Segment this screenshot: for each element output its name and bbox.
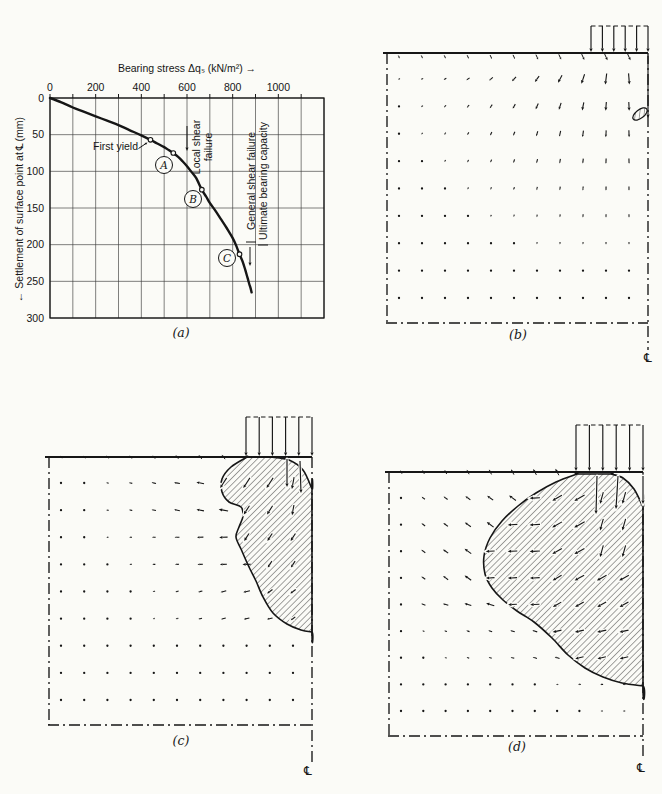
- panel-c-label: (c): [173, 733, 190, 748]
- annotation-general-shear-failure: General shear failure Ultimate bearing c…: [246, 122, 269, 240]
- svg-text:0: 0: [47, 81, 53, 93]
- svg-text:300: 300: [26, 312, 44, 324]
- svg-text:150: 150: [26, 202, 44, 214]
- point-label-A: A: [155, 156, 173, 174]
- annotation-local-shear-failure: Local shear failure: [191, 103, 214, 191]
- chart-a: 02004006008001000050100150200250300: [26, 81, 324, 324]
- y-axis-title-text: ← Settlement of surface point at: [13, 152, 25, 302]
- panel-d-label: (d): [508, 739, 526, 754]
- x-axis-title: Bearing stress Δqₛ (kN/m²) →: [50, 62, 324, 74]
- annotation-line: Local shear: [191, 103, 203, 191]
- point-label-C: C: [218, 249, 236, 267]
- figure-page: 02004006008001000050100150200250300 Bear…: [0, 0, 662, 794]
- svg-text:50: 50: [32, 128, 44, 140]
- svg-text:100: 100: [26, 165, 44, 177]
- annotation-line: Ultimate bearing capacity: [258, 122, 270, 240]
- centerline-symbol: ℄: [644, 350, 652, 365]
- svg-text:600: 600: [178, 81, 196, 93]
- panel-b: [383, 53, 649, 350]
- panel-a-label: (a): [172, 325, 189, 340]
- centerline-symbol: ℄: [637, 760, 645, 775]
- footing-load-b: [589, 26, 649, 118]
- local-yield-blob: [631, 105, 650, 122]
- panel-c: [45, 455, 313, 763]
- y-axis-title-units: (mm): [13, 117, 25, 142]
- point-label-B: B: [184, 190, 202, 208]
- annotation-line: failure: [203, 103, 215, 191]
- figure-graphics: 02004006008001000050100150200250300: [0, 0, 662, 794]
- centerline-symbol: ℄: [304, 763, 312, 778]
- annotation-first-yield: First yield: [84, 140, 138, 152]
- plastic-zone-d: [484, 473, 645, 699]
- annotation-line: General shear failure: [246, 122, 258, 240]
- svg-text:800: 800: [224, 81, 242, 93]
- y-axis-title: ← Settlement of surface point at℄(mm): [13, 88, 25, 331]
- centerline-symbol: ℄: [13, 143, 25, 150]
- svg-text:250: 250: [26, 275, 44, 287]
- curve-marker: [148, 138, 153, 143]
- svg-text:200: 200: [26, 238, 44, 250]
- svg-text:0: 0: [38, 92, 44, 104]
- svg-text:400: 400: [133, 81, 151, 93]
- curve-marker: [237, 252, 242, 257]
- panel-b-label: (b): [509, 327, 527, 342]
- svg-text:1000: 1000: [267, 81, 291, 93]
- panel-d: [385, 469, 645, 760]
- curve-marker: [171, 151, 176, 156]
- svg-text:200: 200: [87, 81, 105, 93]
- vector-field-b: [398, 54, 631, 299]
